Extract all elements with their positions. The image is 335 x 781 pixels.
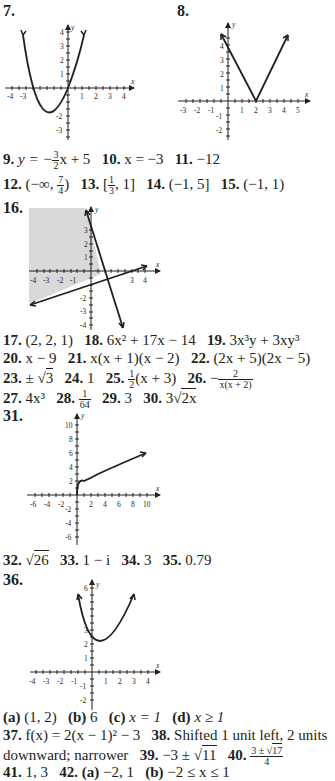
problem-24-label: 24. [64,370,83,386]
svg-text:-6: -6 [30,500,36,509]
problem-40-fraction: 3 ± √174 [250,746,283,767]
svg-text:1: 1 [84,654,88,663]
svg-text:2: 2 [84,240,88,249]
graph-7: -4-3 1234 4321 -2-3-4 yx [0,20,140,140]
answers-row-23-26: 23. ± √3 24. 1 25. 12(x + 3) 26. −2x(x +… [3,369,253,390]
svg-text:2: 2 [118,677,122,686]
svg-text:8: 8 [69,435,73,444]
svg-text:-4: -4 [30,276,36,285]
svg-text:x: x [155,661,160,670]
svg-text:-3: -3 [180,106,186,115]
problem-36c-label: (c) [109,709,126,725]
svg-text:-3: -3 [56,126,62,135]
svg-text:-2: -2 [80,696,86,705]
svg-text:-2: -2 [58,500,64,509]
svg-text:-2: -2 [216,126,222,135]
problem-30-label: 30. [143,390,162,406]
problem-29-answer: 3 [125,390,133,406]
svg-text:1: 1 [80,92,84,101]
answers-row-20-22: 20. x − 9 21. x(x + 1)(x − 2) 22. (2x + … [3,351,310,366]
problem-22-answer: (2x + 5)(2x − 5) [213,350,310,366]
problem-35-answer: 0.79 [185,552,211,568]
problem-12-label: 12. [3,176,22,192]
problem-14-answer: (−1, 5] [169,176,210,192]
svg-text:4: 4 [146,677,150,686]
problem-20-label: 20. [3,350,22,366]
problem-15-label: 15. [221,176,240,192]
problem-42-label: 42. [59,764,78,780]
svg-text:8: 8 [131,500,135,509]
svg-text:-1: -1 [80,682,86,691]
svg-text:x: x [304,90,309,99]
problem-38-answer-line2: downward; narrower [3,747,128,763]
problem-38-label: 38. [152,727,171,743]
svg-text:-2: -2 [80,294,86,303]
graph-16: -4-3-2-1 34 321 -2-3-4 yx [20,205,170,333]
problem-42b-label: (b) [145,764,163,780]
problem-36d-label: (d) [172,709,190,725]
problem-26-fraction: 2x(x + 2) [218,369,252,390]
svg-text:x: x [155,260,160,269]
problem-37-answer: f(x) = 2(x − 1)² − 3 [26,727,141,743]
problem-39-radicand: 11 [202,745,216,763]
problem-36-label: 36. [3,572,23,588]
svg-text:4: 4 [69,463,73,472]
svg-text:-3: -3 [20,92,26,101]
svg-text:1: 1 [60,70,64,79]
problem-35-label: 35. [163,552,182,568]
svg-text:-4: -4 [29,677,35,686]
svg-text:y: y [231,20,236,29]
svg-text:4: 4 [282,106,286,115]
problem-41-answer: 1, 3 [26,764,49,780]
problem-23-label: 23. [3,370,22,386]
svg-text:-2: -2 [57,276,63,285]
graph-31: -6-4-2 246810 108642 -2-4-6 yx [20,412,170,552]
svg-text:-2: -2 [56,112,62,121]
problem-33-answer: 1 − i [82,552,110,568]
answers-row-9-11: 9. y = −32x + 5 10. x = −3 11. −12 [3,150,220,171]
problem-34-label: 34. [121,552,140,568]
problem-9-label: 9. [3,151,14,167]
problem-27-label: 27. [3,390,22,406]
answers-row-17-19: 17. (2, 2, 1) 18. 6x² + 17x − 14 19. 3x³… [3,333,299,348]
svg-text:4: 4 [122,92,126,101]
svg-text:2: 2 [69,477,73,486]
svg-text:-1: -1 [216,112,222,121]
problem-17-answer: (2, 2, 1) [26,332,74,348]
answers-row-37-38: 37. f(x) = 2(x − 1)² − 3 38. Shifted 1 u… [3,728,327,743]
svg-text:2: 2 [60,56,64,65]
problem-36b-label: (b) [68,709,86,725]
svg-text:-4: -4 [65,519,71,528]
svg-text:2: 2 [220,70,224,79]
problem-19-answer: 3x³y + 3xy³ [229,332,299,348]
problem-25-label: 25. [106,370,125,386]
svg-text:3: 3 [220,56,224,65]
problem-36d-answer: x ≥ 1 [194,709,224,725]
svg-text:-1: -1 [70,276,76,285]
problem-29-label: 29. [102,390,121,406]
problem-12-pre: (−∞, [26,176,58,192]
problem-18-answer: 6x² + 17x − 14 [107,332,196,348]
problem-36b-answer: 6 [90,709,98,725]
problem-7-label: 7. [3,3,15,19]
answers-row-32-35: 32. √26 33. 1 − i 34. 3 35. 0.79 [3,553,211,568]
problem-41-label: 41. [3,764,22,780]
problem-36a-label: (a) [3,709,21,725]
svg-text:3: 3 [108,92,112,101]
svg-text:-2: -2 [65,505,71,514]
svg-text:3: 3 [130,276,134,285]
problem-18-label: 18. [84,332,103,348]
problem-42a-answer: −2, 1 [103,764,134,780]
answers-row-27-30: 27. 4x³ 28. 164 29. 3 30. 3√2x [3,389,196,410]
svg-text:-3: -3 [80,307,86,316]
problem-24-answer: 1 [87,370,95,386]
problem-27-answer: 4x³ [26,390,46,406]
svg-text:y: y [80,412,85,420]
svg-text:y: y [70,23,75,32]
problem-13-post: , 1] [115,176,135,192]
svg-text:3: 3 [268,106,272,115]
problem-42b-answer: −2 ≤ x ≤ 1 [167,764,229,780]
svg-text:5: 5 [296,106,300,115]
problem-11-answer: −12 [196,151,219,167]
svg-text:4: 4 [103,500,107,509]
